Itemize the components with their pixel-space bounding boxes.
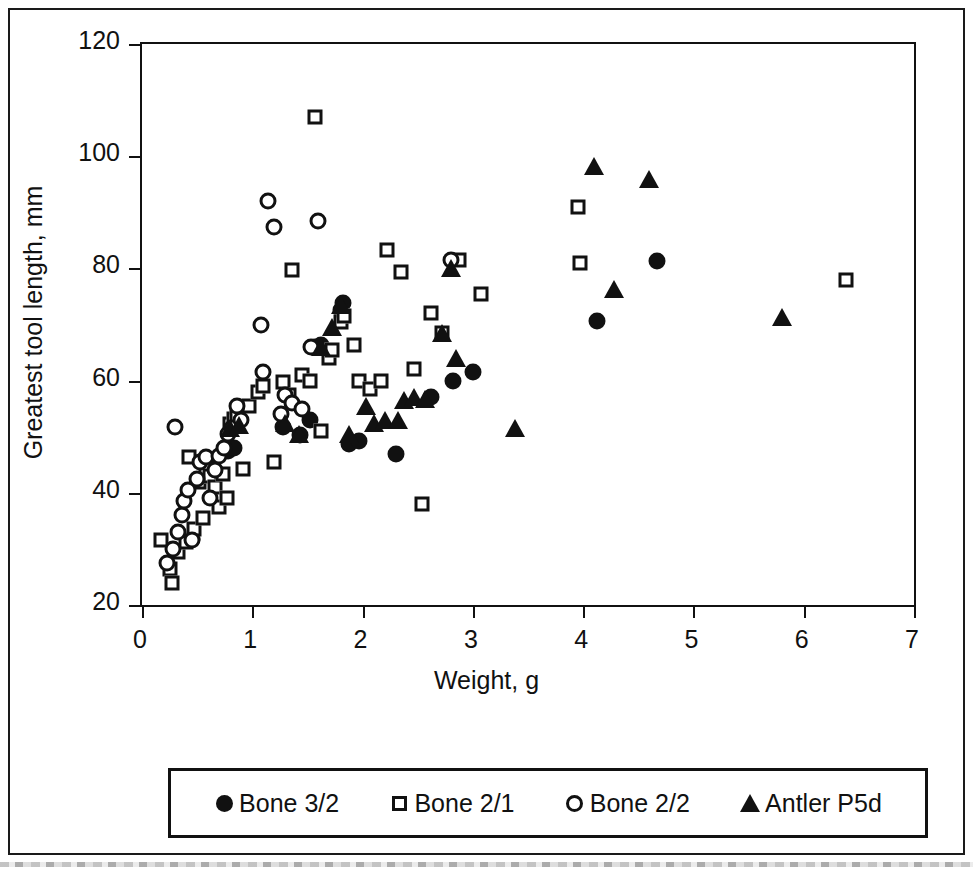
filled-triangle-marker-icon <box>740 794 760 812</box>
legend-entry: Bone 2/1 <box>389 789 514 818</box>
y-axis-tick-label: 100 <box>78 138 120 167</box>
open-square-marker-icon <box>374 373 389 388</box>
open-circle-marker-icon <box>310 212 327 229</box>
y-axis-title-label: Greatest tool length, mm <box>20 186 49 460</box>
y-axis-tick-label: 80 <box>92 250 120 279</box>
y-axis-tick-label: 60 <box>92 363 120 392</box>
open-square-marker-icon <box>313 424 328 439</box>
legend-label: Bone 3/2 <box>239 789 339 818</box>
open-circle-marker-icon <box>255 364 272 381</box>
y-axis-tick <box>129 156 140 158</box>
open-circle-marker-icon <box>202 490 219 507</box>
open-square-marker-icon <box>267 454 282 469</box>
x-axis-tick <box>583 607 585 618</box>
filled-circle-marker-icon <box>387 445 404 462</box>
x-axis-tick-label: 5 <box>684 625 698 654</box>
open-square-marker-icon <box>164 575 179 590</box>
y-axis-tick <box>129 381 140 383</box>
filled-triangle-marker-icon <box>331 296 351 314</box>
x-axis-tick <box>252 607 254 618</box>
filled-triangle-marker-icon <box>772 308 792 326</box>
legend-swatch <box>214 793 234 813</box>
open-square-marker-icon <box>570 199 585 214</box>
open-circle-marker-icon <box>266 219 283 236</box>
open-square-marker-icon <box>407 362 422 377</box>
open-square-marker-icon <box>379 242 394 257</box>
open-square-marker-icon <box>284 262 299 277</box>
y-axis-tick-label: 40 <box>92 475 120 504</box>
legend-swatch <box>565 793 585 813</box>
x-axis-tick <box>804 607 806 618</box>
y-axis-tick-label: 20 <box>92 587 120 616</box>
filled-triangle-marker-icon <box>388 411 408 429</box>
open-square-marker-icon <box>195 511 210 526</box>
open-circle-marker-icon <box>253 316 270 333</box>
legend-entry: Antler P5d <box>740 789 882 818</box>
open-square-marker-icon <box>236 461 251 476</box>
open-square-marker-icon <box>308 109 323 124</box>
legend-entry: Bone 3/2 <box>214 789 339 818</box>
legend-label: Antler P5d <box>765 789 882 818</box>
open-square-marker-icon <box>423 306 438 321</box>
y-axis-tick <box>129 605 140 607</box>
filled-triangle-marker-icon <box>322 318 342 336</box>
filled-circle-marker-icon <box>216 795 233 812</box>
y-axis-tick <box>129 268 140 270</box>
filled-circle-marker-icon <box>649 253 666 270</box>
filled-triangle-marker-icon <box>604 280 624 298</box>
legend-swatch <box>740 793 760 813</box>
open-circle-marker-icon <box>189 470 206 487</box>
x-axis-tick-label: 0 <box>133 625 147 654</box>
open-circle-marker-icon <box>167 418 184 435</box>
open-square-marker-icon <box>572 255 587 270</box>
open-square-marker-icon <box>392 796 407 811</box>
open-square-marker-icon <box>394 265 409 280</box>
filled-triangle-marker-icon <box>229 416 249 434</box>
open-square-marker-icon <box>346 338 361 353</box>
scan-artifact <box>0 862 973 867</box>
y-axis-tick <box>129 44 140 46</box>
filled-triangle-marker-icon <box>289 425 309 443</box>
filled-triangle-marker-icon <box>505 419 525 437</box>
x-axis-tick <box>693 607 695 618</box>
y-axis-tick-label: 120 <box>78 26 120 55</box>
plot-area <box>140 42 916 607</box>
open-circle-marker-icon <box>164 540 181 557</box>
x-axis-tick <box>914 607 916 618</box>
x-axis-tick <box>363 607 365 618</box>
legend-swatch <box>389 793 409 813</box>
open-circle-marker-icon <box>183 532 200 549</box>
open-square-marker-icon <box>415 497 430 512</box>
x-axis-tick-label: 6 <box>795 625 809 654</box>
open-circle-marker-icon <box>566 795 583 812</box>
open-circle-marker-icon <box>259 193 276 210</box>
filled-triangle-marker-icon <box>432 324 452 342</box>
x-axis-title-label: Weight, g <box>434 666 539 694</box>
filled-triangle-marker-icon <box>584 157 604 175</box>
legend: Bone 3/2Bone 2/1Bone 2/2Antler P5d <box>168 768 928 838</box>
x-axis-title: Weight, g <box>0 666 973 695</box>
scatter-plot-figure: Greatest tool length, mm Weight, g 20406… <box>0 0 973 874</box>
x-axis-tick-label: 2 <box>354 625 368 654</box>
filled-circle-marker-icon <box>464 364 481 381</box>
filled-triangle-marker-icon <box>311 338 331 356</box>
x-axis-tick-label: 7 <box>905 625 919 654</box>
legend-label: Bone 2/2 <box>590 789 690 818</box>
filled-triangle-marker-icon <box>415 390 435 408</box>
filled-circle-marker-icon <box>589 312 606 329</box>
open-square-marker-icon <box>256 379 271 394</box>
x-axis-tick-label: 3 <box>464 625 478 654</box>
open-square-marker-icon <box>838 272 853 287</box>
legend-label: Bone 2/1 <box>414 789 514 818</box>
filled-triangle-marker-icon <box>441 259 461 277</box>
open-circle-marker-icon <box>293 400 310 417</box>
open-square-marker-icon <box>302 373 317 388</box>
x-axis-tick <box>142 607 144 618</box>
open-square-marker-icon <box>473 286 488 301</box>
open-square-marker-icon <box>219 491 234 506</box>
x-axis-tick-label: 4 <box>574 625 588 654</box>
y-axis-title: Greatest tool length, mm <box>14 0 54 645</box>
filled-triangle-marker-icon <box>639 170 659 188</box>
filled-triangle-marker-icon <box>356 397 376 415</box>
x-axis-tick-label: 1 <box>243 625 257 654</box>
